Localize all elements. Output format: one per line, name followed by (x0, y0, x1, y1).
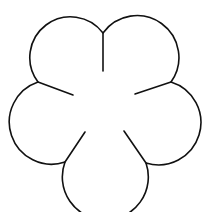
vein-lower-right (124, 131, 146, 163)
vein-right (135, 82, 171, 94)
vein-lower-left (65, 132, 85, 162)
flower-outline (9, 16, 201, 212)
flower-figure (0, 0, 206, 212)
flower-drawing (0, 0, 206, 212)
vein-left (38, 82, 73, 95)
